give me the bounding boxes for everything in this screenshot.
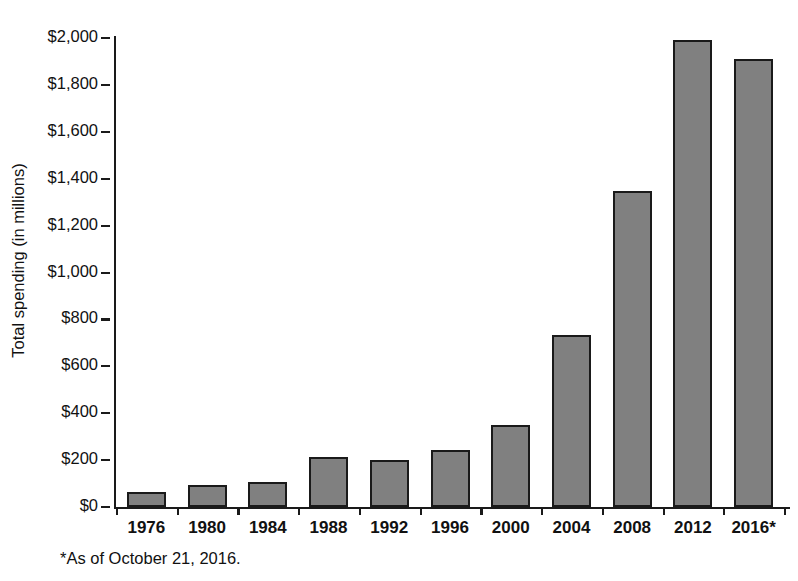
plot-area xyxy=(116,38,784,507)
x-tick-label: 2012 xyxy=(663,518,724,538)
y-tick-label: $1,400 xyxy=(48,168,98,187)
x-tick-mark xyxy=(480,507,482,515)
y-tick-mark xyxy=(101,37,110,39)
bar-2004 xyxy=(552,335,591,507)
y-tick-mark xyxy=(101,412,110,414)
x-tick-label: 2000 xyxy=(480,518,541,538)
y-tick-mark xyxy=(101,131,110,133)
y-tick-mark xyxy=(101,459,110,461)
bar-1984 xyxy=(248,482,287,507)
bar-1992 xyxy=(370,460,409,507)
y-tick-mark xyxy=(101,225,110,227)
y-axis-title: Total spending (in millions) xyxy=(0,0,36,520)
y-tick-mark xyxy=(101,272,110,274)
x-tick-mark xyxy=(663,507,665,515)
y-tick-mark xyxy=(101,84,110,86)
x-tick-mark xyxy=(541,507,543,515)
x-tick-mark xyxy=(237,507,239,515)
x-tick-label: 2008 xyxy=(602,518,663,538)
y-tick-label: $200 xyxy=(61,449,98,468)
y-tick-label: $400 xyxy=(61,402,98,421)
bar-2008 xyxy=(613,191,652,507)
x-axis-line xyxy=(114,507,790,509)
x-tick-label: 1988 xyxy=(298,518,359,538)
x-tick-mark xyxy=(116,507,118,515)
y-tick-label: $0 xyxy=(80,496,98,515)
x-tick-mark xyxy=(420,507,422,515)
y-tick-label: $1,000 xyxy=(48,262,98,281)
x-tick-label: 2016* xyxy=(723,518,784,538)
x-tick-label: 1980 xyxy=(177,518,238,538)
y-tick-label: $1,800 xyxy=(48,74,98,93)
x-tick-mark xyxy=(784,507,786,515)
cropped-title-text xyxy=(0,0,798,2)
y-tick-label: $2,000 xyxy=(48,27,98,46)
y-tick-label: $1,600 xyxy=(48,121,98,140)
x-tick-mark xyxy=(723,507,725,515)
x-tick-mark xyxy=(177,507,179,515)
x-tick-mark xyxy=(602,507,604,515)
bar-2012 xyxy=(673,40,712,507)
x-tick-label: 1996 xyxy=(420,518,481,538)
chart-figure: Total spending (in millions) $0$200$400$… xyxy=(0,0,798,581)
y-tick-mark xyxy=(101,318,110,320)
x-tick-label: 1992 xyxy=(359,518,420,538)
x-tick-label: 1976 xyxy=(116,518,177,538)
y-tick-mark xyxy=(101,178,110,180)
bar-2016 xyxy=(734,59,773,507)
y-tick-label: $1,200 xyxy=(48,215,98,234)
y-tick-mark xyxy=(101,506,110,508)
bar-1980 xyxy=(188,485,227,507)
y-tick-label: $800 xyxy=(61,308,98,327)
y-tick-label: $600 xyxy=(61,355,98,374)
x-tick-label: 1984 xyxy=(237,518,298,538)
bar-1996 xyxy=(431,450,470,507)
x-tick-label: 2004 xyxy=(541,518,602,538)
bar-2000 xyxy=(491,425,530,507)
x-tick-mark xyxy=(359,507,361,515)
y-tick-mark xyxy=(101,365,110,367)
bar-1988 xyxy=(309,457,348,507)
x-tick-mark xyxy=(298,507,300,515)
bar-1976 xyxy=(127,492,166,507)
y-axis-title-text: Total spending (in millions) xyxy=(9,163,28,357)
footnote: *As of October 21, 2016. xyxy=(60,549,241,568)
